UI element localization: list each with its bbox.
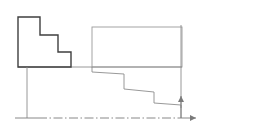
diagram-canvas xyxy=(0,0,256,139)
figure-svg xyxy=(0,0,256,139)
